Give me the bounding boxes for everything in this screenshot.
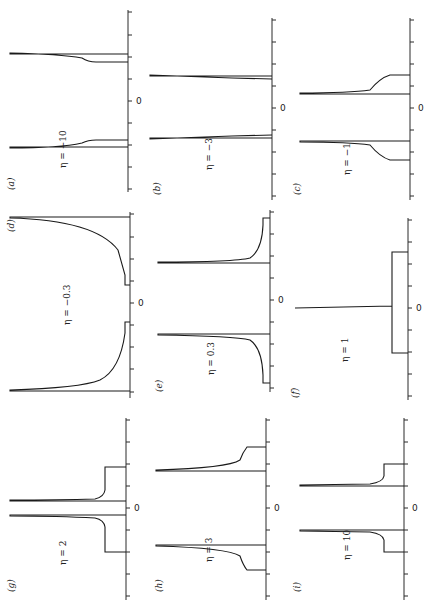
ticks-d <box>130 214 134 392</box>
ticks-b <box>272 20 276 196</box>
zero-label-h: 0 <box>274 503 280 513</box>
eta-label-c: η = −1 <box>342 143 352 175</box>
curve-g <box>10 467 126 552</box>
zero-label-c: 0 <box>418 103 424 113</box>
panel-label-c: (c) <box>292 182 302 195</box>
panel-h: 0 (h) η = 3 <box>154 418 280 600</box>
panel-label-a: (a) <box>6 177 16 190</box>
ticks-f <box>408 220 412 396</box>
eta-label-e: η = 0.3 <box>206 342 216 375</box>
panel-i: 0 (i) η = 10 <box>292 418 418 600</box>
curve-a <box>10 53 128 148</box>
panel-label-h: (h) <box>154 579 164 592</box>
zero-label-d: 0 <box>138 298 144 308</box>
zero-label-a: 0 <box>136 96 142 106</box>
panel-a: 0 (a) η = −10 <box>6 10 142 192</box>
curve-f <box>295 252 408 353</box>
panel-label-d: (d) <box>6 219 16 232</box>
panel-b: 0 (b) η = −3 <box>150 18 286 200</box>
zero-label-b: 0 <box>280 103 286 113</box>
eta-label-h: η = 3 <box>204 537 214 562</box>
zero-label-f: 0 <box>416 303 422 313</box>
zero-label-g: 0 <box>134 503 140 513</box>
eta-label-a: η = −10 <box>58 130 68 168</box>
zero-label-e: 0 <box>278 295 284 305</box>
panel-label-i: (i) <box>292 582 302 592</box>
ticks-g <box>126 420 130 596</box>
eta-label-g: η = 2 <box>58 541 68 565</box>
curve-b <box>150 75 272 139</box>
eta-label-i: η = 10 <box>342 530 352 560</box>
ticks-h <box>266 420 270 596</box>
panel-f: 0 (f) η = 1 <box>290 218 422 400</box>
zero-label-i: 0 <box>412 503 418 513</box>
panel-c: 0 (c) η = −1 <box>292 18 424 200</box>
panel-label-b: (b) <box>152 182 162 195</box>
eta-label-d: η = −0.3 <box>62 284 72 325</box>
ticks-i <box>404 420 408 596</box>
eta-label-b: η = −3 <box>204 138 214 170</box>
eta-label-f: η = 1 <box>340 338 350 362</box>
panel-g: 0 (g) η = 2 <box>6 418 140 600</box>
panel-label-e: (e) <box>154 379 164 392</box>
panel-e: 0 (e) η = 0.3 <box>154 210 284 392</box>
panel-label-g: (g) <box>6 579 16 592</box>
panel-d: 0 (d) η = −0.3 <box>6 212 144 398</box>
ticks-c <box>410 20 414 196</box>
curve-c <box>300 75 410 160</box>
ticks-a <box>128 12 132 189</box>
panel-label-f: (f) <box>290 387 300 398</box>
ticks-e <box>270 212 274 388</box>
figure-density-of-states: 0 (a) η = −10 0 (d) η = −0.3 0 (g) η = <box>0 0 430 613</box>
curve-i <box>300 464 404 552</box>
